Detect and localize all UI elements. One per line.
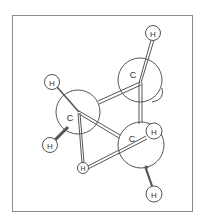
bond-c2-h4 (78, 113, 84, 163)
atom-h6: H (146, 186, 162, 202)
atom-h5-label: H (151, 128, 157, 137)
atom-h5: H (146, 123, 162, 139)
atom-h4: H (78, 163, 89, 174)
atom-h4-label: H (80, 165, 85, 172)
atom-h3-label: H (47, 142, 53, 151)
bond-c2-h3 (55, 127, 68, 140)
bond-c1-c3 (139, 83, 142, 122)
atom-h6-label: H (151, 191, 157, 200)
bond-c3-h6 (145, 166, 152, 186)
bond-c1-c2 (98, 82, 141, 104)
atom-h1-label: H (150, 30, 156, 39)
atom-h2-label: H (49, 79, 55, 88)
atom-h1: H (146, 26, 161, 41)
atom-c3-label: C (129, 134, 136, 144)
molecule-diagram: C C C H H H H H H (0, 0, 204, 223)
atom-h3: H (43, 138, 58, 153)
atom-h2: H (45, 75, 60, 90)
atom-c1-label: C (130, 70, 137, 80)
atom-c2-label: C (67, 113, 74, 123)
hidden-atom-arc (152, 88, 163, 102)
